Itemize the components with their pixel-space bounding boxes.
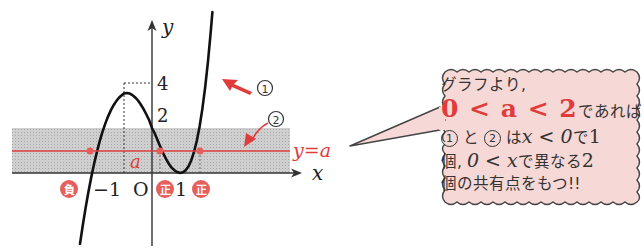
bubble-line-5: 個の共有点をもつ!! (441, 173, 641, 195)
tick-label-1: 1 (175, 178, 187, 200)
curve2-label: 2 (273, 114, 280, 127)
bubble-math-0-lt-x: 0 < x (467, 149, 518, 171)
marker-positive-1: 正 (160, 184, 171, 197)
origin-label: O (133, 178, 149, 200)
bubble-line-2: 0 < a < 2であれば (441, 96, 641, 125)
speech-bubble-tail (350, 107, 440, 146)
bubble-math-x-lt-0: x < 0 (522, 125, 573, 147)
bubble-line-1: グラフより, (441, 74, 641, 96)
intersection-point-negative (87, 148, 94, 155)
circled-2-icon: 2 (484, 130, 501, 147)
bubble-line-3: 1 と 2 はx < 0で1 (441, 125, 641, 149)
cubic-curve (80, 12, 212, 244)
bubble-line-4: 個, 0 < xで異なる2 (441, 149, 641, 173)
bubble-count-1: 1 (589, 125, 601, 147)
tick-label-2: 2 (157, 105, 168, 126)
marker-negative: 負 (64, 183, 75, 197)
intersection-point-positive-2 (197, 148, 204, 155)
bubble-line2-tail: であれば (578, 103, 642, 121)
bubble-wa: は (506, 129, 522, 147)
curve1-arrow-icon (222, 79, 252, 95)
y-axis-label: y (161, 15, 174, 39)
condition-highlight: 0 < a < 2 (441, 94, 578, 123)
curve1-label: 1 (262, 83, 269, 96)
bubble-to: と (463, 129, 479, 147)
tick-label-4: 4 (157, 73, 168, 94)
bubble-ko: 個, (441, 153, 462, 171)
intersection-point-positive-1 (157, 148, 164, 155)
bubble-intro: グラフより, (441, 76, 526, 94)
bubble-conclusion: 個の共有点をもつ!! (441, 175, 580, 193)
line-label-y-equals-a: y=a (292, 139, 331, 161)
bubble-de: で (573, 129, 589, 147)
bubble-count-2: 2 (582, 149, 594, 171)
marker-positive-2: 正 (196, 184, 207, 197)
bubble-line4-tail: で異なる (518, 153, 582, 171)
circled-1-icon: 1 (441, 130, 458, 147)
tick-label-neg1: −1 (93, 178, 121, 200)
x-axis-label: x (312, 161, 323, 185)
a-label: a (130, 151, 141, 172)
bubble-text: グラフより, 0 < a < 2であれば 1 と 2 はx < 0で1 個, 0… (441, 74, 641, 195)
